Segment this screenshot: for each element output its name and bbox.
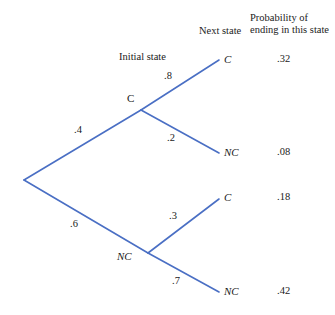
leaf-state-1: C: [224, 53, 231, 66]
leaf-state-3: C: [224, 191, 231, 204]
edge-label-nc-to-nc: .7: [172, 275, 180, 287]
leaf-probability-4: .42: [277, 285, 290, 297]
edge-label-root-to-c: .4: [74, 124, 82, 136]
leaf-probability-2: .08: [277, 146, 290, 158]
header-next-state: Next state: [199, 25, 241, 37]
probability-tree-diagram: Next state Probability of ending in this…: [0, 0, 335, 315]
header-probability: Probability of ending in this state: [250, 12, 329, 36]
branch-c-to-c: [141, 60, 219, 110]
leaf-probability-1: .32: [277, 53, 290, 65]
leaf-probability-3: .18: [277, 191, 290, 203]
initial-state-label: Initial state: [119, 51, 166, 63]
leaf-state-4: NC: [224, 285, 239, 298]
node-level1-c: C: [127, 92, 134, 105]
edge-label-c-to-nc: .2: [167, 132, 175, 144]
edge-label-nc-to-c: .3: [169, 210, 177, 222]
leaf-state-2: NC: [224, 146, 239, 159]
header-probability-line1: Probability of: [250, 12, 329, 24]
branch-root-to-c: [24, 110, 141, 180]
node-level1-nc: NC: [117, 250, 132, 263]
edge-label-root-to-nc: .6: [70, 218, 78, 230]
branch-c-to-nc: [141, 110, 219, 153]
header-probability-line2: ending in this state: [250, 24, 329, 36]
branch-nc-to-nc: [148, 253, 219, 292]
branch-nc-to-c: [148, 199, 219, 253]
branch-root-to-nc: [24, 180, 148, 253]
edge-label-c-to-c: .8: [164, 70, 172, 82]
